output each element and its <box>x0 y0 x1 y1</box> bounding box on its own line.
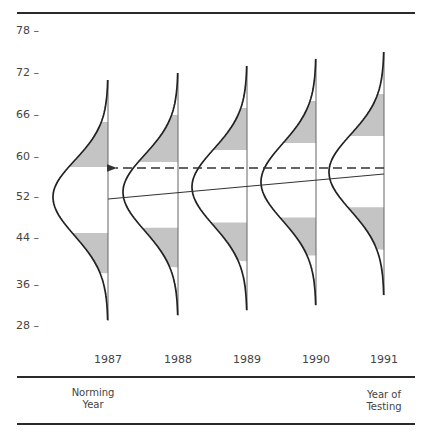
year-1991: 1991 <box>359 353 409 366</box>
norming-year-label: Norming Year <box>58 387 128 411</box>
distribution-curve-1990 <box>261 59 316 305</box>
year-1988: 1988 <box>153 353 203 366</box>
distribution-curve-1987 <box>53 80 108 320</box>
testing-line-2: Testing <box>349 401 419 413</box>
distribution-curve-1989 <box>192 66 247 310</box>
trend-line <box>108 174 384 199</box>
year-1987: 1987 <box>83 353 133 366</box>
distribution-curve-1991 <box>329 52 384 295</box>
bottom-rule <box>17 423 415 425</box>
testing-line-1: Year of <box>349 389 419 401</box>
year-1990: 1990 <box>291 353 341 366</box>
year-of-testing-label: Year of Testing <box>349 389 419 413</box>
middle-rule <box>17 376 415 378</box>
norming-line-2: Year <box>58 399 128 411</box>
norming-line-1: Norming <box>58 387 128 399</box>
distribution-plot <box>0 0 426 437</box>
year-1989: 1989 <box>222 353 272 366</box>
